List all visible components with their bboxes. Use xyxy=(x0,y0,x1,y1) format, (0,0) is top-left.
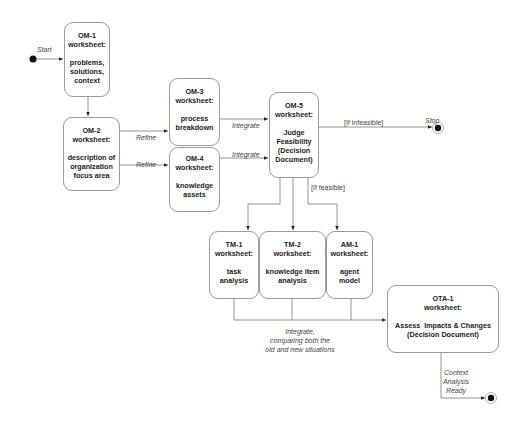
integrate-label-2: Integrate xyxy=(232,150,260,159)
if-feasible-label: [If feasible] xyxy=(311,183,345,192)
integrate-compare-label: Integrate, comparing both the old and ne… xyxy=(250,327,350,354)
am1-worksheet-node: AM-1 worksheet: agent model xyxy=(326,231,373,299)
tm2-worksheet-node: TM-2 worksheet: knowledge item analysis xyxy=(259,231,326,299)
refine-label-2: Refine xyxy=(136,160,156,169)
activity-diagram: Start Stop Refine Refine Integrate Integ… xyxy=(0,0,523,426)
context-ready-label: Context Analysis Ready xyxy=(436,368,476,395)
om5-worksheet-node: OM-5 worksheet: Judge Feasibility (Decis… xyxy=(269,92,319,178)
if-infeasible-label: [If infeasible] xyxy=(344,118,383,127)
om2-worksheet-node: OM-2 worksheet: description of organizat… xyxy=(63,117,120,191)
start-label: Start xyxy=(37,45,52,54)
om3-worksheet-node: OM-3 worksheet: process breakdown xyxy=(169,78,220,146)
refine-label-1: Refine xyxy=(136,133,156,142)
tm1-worksheet-node: TM-1 worksheet: task analysis xyxy=(209,231,259,299)
om4-worksheet-node: OM-4 worksheet: knowledge assets xyxy=(169,147,220,212)
ota1-worksheet-node: OTA-1 worksheet: Assess Impacts & Change… xyxy=(387,285,499,353)
integrate-label-1: Integrate xyxy=(232,121,260,130)
start-node xyxy=(30,56,37,63)
stop-label: Stop xyxy=(425,116,439,125)
om1-worksheet-node: OM-1 worksheet: problems, solutions, con… xyxy=(64,22,110,97)
